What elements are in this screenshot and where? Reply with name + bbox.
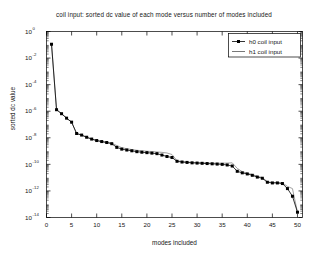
svg-text:10: 10 xyxy=(25,187,32,194)
data-point xyxy=(206,162,209,165)
y-tick-label: 10-2 xyxy=(25,52,37,61)
plot-canvas: 10010-210-410-610-810-1010-1210-14 05101… xyxy=(0,0,328,259)
data-point xyxy=(246,172,249,175)
svg-text:-10: -10 xyxy=(33,159,40,164)
svg-text:10: 10 xyxy=(25,161,32,168)
legend[interactable]: h0 coil inputh1 coil input xyxy=(229,34,301,58)
svg-text:0: 0 xyxy=(33,26,36,31)
legend-marker xyxy=(237,40,240,43)
data-point xyxy=(271,181,274,184)
x-tick-label: 25 xyxy=(169,221,176,228)
data-point xyxy=(60,112,63,115)
data-point xyxy=(120,148,123,151)
data-point xyxy=(191,161,194,164)
data-point xyxy=(50,43,53,46)
svg-text:10: 10 xyxy=(25,28,32,35)
x-tick-label: 20 xyxy=(143,221,150,228)
y-tick-label: 10-10 xyxy=(25,159,39,168)
data-point xyxy=(110,142,113,145)
data-point xyxy=(140,151,143,154)
svg-text:-8: -8 xyxy=(33,132,37,137)
data-point xyxy=(135,150,138,153)
x-tick-label: 15 xyxy=(118,221,125,228)
data-point xyxy=(115,146,118,149)
x-tick-label: 40 xyxy=(244,221,251,228)
data-point xyxy=(286,187,289,190)
data-point xyxy=(176,160,179,163)
data-point xyxy=(100,140,103,143)
plot-frame xyxy=(47,32,303,218)
data-point xyxy=(296,211,299,214)
data-point xyxy=(256,176,259,179)
data-point xyxy=(130,149,133,152)
legend-label: h1 coil input xyxy=(249,48,282,55)
data-point xyxy=(65,117,68,120)
data-point xyxy=(291,195,294,198)
svg-text:10: 10 xyxy=(25,54,32,61)
svg-text:-4: -4 xyxy=(33,79,37,84)
svg-text:-2: -2 xyxy=(33,52,37,57)
svg-text:10: 10 xyxy=(25,107,32,114)
y-tick-label: 10-14 xyxy=(25,212,39,221)
data-point xyxy=(196,162,199,165)
data-point xyxy=(70,121,73,124)
x-tick-label: 10 xyxy=(93,221,100,228)
y-tick-label: 10-4 xyxy=(25,79,37,88)
data-point xyxy=(201,162,204,165)
data-point xyxy=(105,141,108,144)
data-point xyxy=(211,162,214,165)
y-axis-tick-labels: 10010-210-410-610-810-1010-1210-14 xyxy=(25,26,39,221)
figure-container: coil input: sorted dc value of each mode… xyxy=(0,0,328,259)
data-point xyxy=(75,132,78,135)
x-tick-label: 50 xyxy=(294,221,301,228)
y-tick-label: 10-8 xyxy=(25,132,37,141)
legend-label: h0 coil input xyxy=(249,38,282,45)
data-point xyxy=(236,170,239,173)
data-point xyxy=(95,139,98,142)
data-point xyxy=(155,152,158,155)
data-point xyxy=(181,161,184,164)
data-point xyxy=(261,177,264,180)
y-tick-label: 10-12 xyxy=(25,185,39,194)
data-point xyxy=(281,182,284,185)
x-tick-label: 30 xyxy=(194,221,201,228)
data-point xyxy=(221,163,224,166)
x-tick-label: 45 xyxy=(269,221,276,228)
data-point xyxy=(186,161,189,164)
svg-text:-6: -6 xyxy=(33,106,37,111)
data-point xyxy=(216,163,219,166)
data-point xyxy=(125,149,128,152)
x-axis-tick-labels: 05101520253035404550 xyxy=(45,221,302,228)
data-point xyxy=(251,174,254,177)
data-point xyxy=(241,171,244,174)
data-point xyxy=(150,152,153,155)
data-point xyxy=(226,163,229,166)
data-point xyxy=(85,136,88,139)
x-tick-label: 35 xyxy=(219,221,226,228)
y-tick-label: 10-6 xyxy=(25,106,37,115)
x-tick-label: 5 xyxy=(70,221,74,228)
svg-text:10: 10 xyxy=(25,81,32,88)
data-point xyxy=(170,156,173,159)
svg-text:10: 10 xyxy=(25,134,32,141)
data-point xyxy=(231,165,234,168)
svg-text:10: 10 xyxy=(25,214,32,221)
data-point xyxy=(165,155,168,158)
data-point xyxy=(55,108,58,111)
data-point xyxy=(80,134,83,137)
data-point xyxy=(160,154,163,157)
x-tick-label: 0 xyxy=(45,221,49,228)
data-point xyxy=(276,181,279,184)
data-point xyxy=(90,138,93,141)
data-point xyxy=(145,151,148,154)
data-point xyxy=(266,181,269,184)
svg-text:-14: -14 xyxy=(33,212,40,217)
svg-text:-12: -12 xyxy=(33,185,40,190)
y-tick-label: 100 xyxy=(25,26,35,35)
